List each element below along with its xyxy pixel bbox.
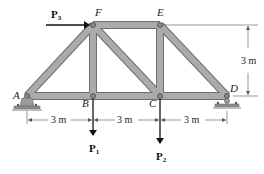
node-label-D: D (229, 82, 238, 94)
pin-B (91, 94, 96, 99)
roller-support-D (213, 99, 241, 110)
node-label-E: E (156, 6, 164, 18)
load-P2: P2 (156, 99, 167, 164)
load-P1: P1 (89, 99, 100, 156)
node-label-F: F (94, 6, 102, 18)
svg-text:P1: P1 (89, 142, 100, 156)
load-P3: P3 (46, 8, 89, 25)
pin-C (158, 94, 163, 99)
dimension-BC: 3 m (117, 114, 133, 125)
svg-text:P3: P3 (51, 8, 62, 22)
truss-diagram: F E A B C D P3 P1 P2 3 m 3 m 3 m 3 m (0, 0, 264, 174)
pin-E (158, 23, 163, 28)
node-label-B: B (82, 97, 89, 109)
dimension-CD: 3 m (184, 114, 200, 125)
dimension-height: 3 m (241, 55, 257, 66)
node-label-C: C (149, 97, 157, 109)
svg-text:P2: P2 (156, 150, 167, 164)
node-label-A: A (12, 89, 20, 101)
pin-F (91, 23, 96, 28)
dimension-AB: 3 m (51, 114, 67, 125)
pin-D (225, 94, 230, 99)
